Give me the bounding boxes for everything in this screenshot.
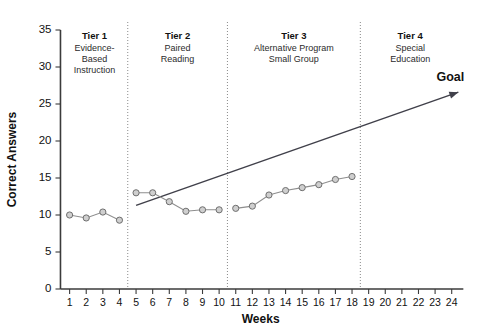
data-point-marker bbox=[249, 203, 255, 209]
data-point-marker bbox=[100, 209, 106, 215]
x-tick-label: 23 bbox=[429, 296, 441, 308]
tier-heading-tier-2: Tier 2 bbox=[165, 30, 190, 41]
x-tick-label: 11 bbox=[230, 296, 241, 308]
tier-subtext-tier-2: Reading bbox=[161, 54, 195, 64]
x-tick-label: 10 bbox=[213, 296, 225, 308]
data-point-marker bbox=[183, 208, 189, 214]
series-polyline bbox=[136, 193, 219, 212]
x-tick-label: 8 bbox=[183, 296, 189, 308]
tier-heading-tier-3: Tier 3 bbox=[281, 30, 306, 41]
x-tick-label: 24 bbox=[446, 296, 458, 308]
x-tick-label: 1 bbox=[67, 296, 73, 308]
data-point-marker bbox=[266, 192, 272, 198]
y-tick-label: 15 bbox=[39, 171, 52, 183]
y-tick-label: 0 bbox=[45, 282, 51, 294]
x-tick-label: 12 bbox=[247, 296, 259, 308]
x-tick-label: 19 bbox=[363, 296, 375, 308]
x-tick-label: 17 bbox=[330, 296, 342, 308]
x-tick-label: 21 bbox=[396, 296, 408, 308]
data-point-marker bbox=[233, 205, 239, 211]
y-axis-title: Correct Answers bbox=[5, 111, 19, 207]
tier-heading-tier-4: Tier 4 bbox=[398, 30, 424, 41]
data-point-marker bbox=[282, 187, 288, 193]
series-polyline bbox=[70, 212, 120, 220]
y-tick-label: 25 bbox=[39, 97, 52, 109]
tier-subtext-tier-3: Small Group bbox=[269, 54, 319, 64]
x-tick-label: 3 bbox=[100, 296, 106, 308]
axis-group bbox=[60, 30, 463, 289]
x-tick-label: 16 bbox=[313, 296, 325, 308]
data-point-marker bbox=[133, 190, 139, 196]
x-tick-label: 9 bbox=[200, 296, 206, 308]
goal-label: Goal bbox=[436, 70, 464, 84]
data-point-marker bbox=[349, 173, 355, 179]
data-point-marker bbox=[67, 212, 73, 218]
tier-subtext-tier-4: Special bbox=[395, 43, 425, 53]
x-tick-label: 14 bbox=[280, 296, 292, 308]
y-tick-label: 35 bbox=[39, 23, 52, 35]
tier-subtext-tier-1: Based bbox=[82, 54, 108, 64]
progress-monitoring-chart: 05101520253035 1234567891011121314151617… bbox=[0, 0, 483, 332]
tier-subtext-tier-1: Evidence- bbox=[75, 43, 115, 53]
x-tick-label: 13 bbox=[263, 296, 275, 308]
y-tick-label: 5 bbox=[45, 245, 51, 257]
y-tick-label: 30 bbox=[39, 60, 52, 72]
data-series-group bbox=[67, 173, 356, 223]
y-axis-ticks: 05101520253035 bbox=[39, 23, 61, 294]
goal-arrowhead bbox=[449, 92, 459, 99]
data-point-marker bbox=[83, 215, 89, 221]
x-tick-label: 4 bbox=[117, 296, 123, 308]
tier-heading-tier-1: Tier 1 bbox=[82, 30, 108, 41]
data-point-marker bbox=[299, 185, 305, 191]
x-tick-label: 22 bbox=[413, 296, 425, 308]
y-tick-label: 10 bbox=[39, 208, 52, 220]
data-point-marker bbox=[332, 176, 338, 182]
data-point-marker bbox=[166, 199, 172, 205]
tier-subtext-tier-4: Education bbox=[390, 54, 430, 64]
tier-subtext-tier-3: Alternative Program bbox=[254, 43, 334, 53]
tier-annotation-group: Tier 1Evidence-BasedInstructionTier 2Pai… bbox=[74, 30, 430, 75]
x-tick-label: 15 bbox=[296, 296, 308, 308]
x-axis-ticks: 123456789101112131415161718192021222324 bbox=[67, 289, 458, 308]
data-point-marker bbox=[216, 207, 222, 213]
x-tick-label: 20 bbox=[379, 296, 391, 308]
data-point-marker bbox=[199, 207, 205, 213]
data-point-marker bbox=[316, 182, 322, 188]
data-point-marker bbox=[150, 190, 156, 196]
chart-canvas: 05101520253035 1234567891011121314151617… bbox=[0, 0, 483, 332]
x-tick-label: 18 bbox=[346, 296, 358, 308]
x-axis-title: Weeks bbox=[242, 312, 280, 326]
y-tick-label: 20 bbox=[39, 134, 52, 146]
x-tick-label: 5 bbox=[133, 296, 139, 308]
tier-subtext-tier-2: Paired bbox=[165, 43, 191, 53]
x-tick-label: 6 bbox=[150, 296, 156, 308]
x-tick-label: 2 bbox=[83, 296, 89, 308]
data-point-marker bbox=[116, 217, 122, 223]
tier-subtext-tier-1: Instruction bbox=[74, 65, 116, 75]
x-tick-label: 7 bbox=[166, 296, 172, 308]
